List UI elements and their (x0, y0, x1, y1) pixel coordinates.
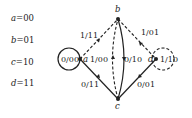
node-d (154, 57, 158, 61)
edge-label-c-d: 0/01 (137, 80, 155, 89)
edge-label-a-a: 0/00 (61, 55, 79, 64)
edge-label-c-a: 0/11 (81, 80, 99, 89)
edge-label-a-b: 1/11 (80, 31, 98, 40)
edge-label-b-d: 1/01 (141, 28, 159, 37)
node-label-d: d (148, 54, 154, 64)
state-diagram: a b c d 0/00 1/11 0/11 1/00 0/10 1/01 0/… (0, 0, 192, 118)
edge-label-c-b: 1/00 (90, 55, 108, 64)
edge-label-d-d: 1/10 (160, 55, 178, 64)
node-b (116, 17, 120, 21)
edge-c-a (80, 59, 118, 99)
node-label-b: b (115, 4, 120, 14)
node-label-c: c (115, 101, 120, 111)
node-label-a: a (83, 54, 88, 64)
edge-label-b-c: 0/10 (124, 55, 142, 64)
